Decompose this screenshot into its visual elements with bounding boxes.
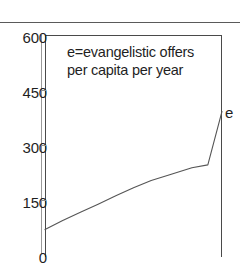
y-tick-label-600: 600 (1, 30, 47, 45)
y-tick-label-0: 0 (1, 250, 47, 265)
plot-annotation: e=evangelistic offers per capita per yea… (67, 44, 217, 79)
annotation-line-2: per capita per year (67, 62, 217, 80)
y-tick-mark-300 (41, 145, 46, 146)
y-tick-label-450: 450 (1, 85, 47, 100)
y-tick-label-300: 300 (1, 140, 47, 155)
series-end-label-e: e (225, 105, 233, 120)
y-tick-label-150: 150 (1, 195, 47, 210)
page-top-rule (0, 22, 240, 23)
annotation-line-1: e=evangelistic offers (67, 44, 217, 62)
y-tick-mark-450 (41, 90, 46, 91)
y-tick-mark-150 (41, 200, 46, 201)
